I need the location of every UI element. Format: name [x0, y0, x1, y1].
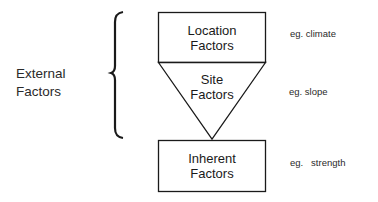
external-factors-line2: Factors — [16, 83, 76, 101]
curly-brace — [111, 12, 123, 138]
site-factors-line2: Factors — [158, 87, 266, 102]
location-factors-line1: Location — [158, 23, 266, 38]
inherent-factors-label: Inherent Factors — [158, 151, 266, 181]
location-factors-label: Location Factors — [158, 23, 266, 53]
inherent-factors-line2: Factors — [158, 166, 266, 181]
site-example: eg. slope — [289, 86, 328, 97]
location-factors-line2: Factors — [158, 38, 266, 53]
site-factors-label: Site Factors — [158, 72, 266, 102]
location-example: eg. climate — [290, 28, 336, 39]
inherent-example: eg. strength — [290, 157, 345, 168]
inherent-factors-line1: Inherent — [158, 151, 266, 166]
site-factors-line1: Site — [158, 72, 266, 87]
external-factors-label: External Factors — [16, 65, 76, 101]
external-factors-line1: External — [16, 65, 76, 83]
